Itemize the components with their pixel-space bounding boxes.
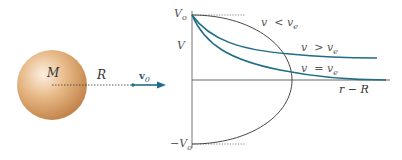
y-bottom-tick-label: −Vo [170, 138, 192, 152]
label-v-greater-than-ve: v > ve [301, 42, 338, 56]
x-axis-label: r − R [339, 84, 369, 95]
mass-label: M [47, 67, 59, 79]
velocity-label: v0 [139, 71, 150, 84]
y-axis-label: V [177, 40, 185, 51]
radius-label: R [97, 69, 106, 81]
label-v-equals-ve: v = ve [301, 63, 338, 77]
y-top-tick-label: Vo [174, 8, 187, 22]
curve-v-less-than-ve [192, 15, 292, 144]
escape-velocity-diagram [0, 0, 402, 160]
label-v-less-than-ve: v < ve [261, 17, 298, 31]
